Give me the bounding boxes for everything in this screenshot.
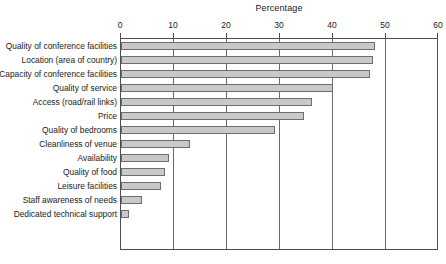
x-tick-label: 60 (433, 20, 442, 30)
bar-row: Quality of conference facilities (0, 40, 446, 54)
category-label: Price (98, 111, 117, 122)
bar (121, 126, 275, 134)
bar-chart: Percentage 0102030405060 Quality of conf… (0, 0, 446, 264)
category-label: Cleanliness of venue (39, 139, 117, 150)
bar-row: Quality of service (0, 82, 446, 96)
bar (121, 98, 312, 106)
x-tick-label: 0 (118, 20, 123, 30)
bar (121, 42, 375, 50)
x-tick-label: 20 (221, 20, 230, 30)
bar-row: Leisure facilities (0, 180, 446, 194)
category-label: Capacity of conference facilities (0, 69, 117, 80)
x-tick-label: 10 (168, 20, 177, 30)
bar-row: Capacity of conference facilities (0, 68, 446, 82)
category-label: Staff awareness of needs (23, 195, 117, 206)
category-label: Quality of food (63, 167, 117, 178)
bar (121, 154, 169, 162)
category-label: Quality of bedrooms (42, 125, 117, 136)
bar-row: Location (area of country) (0, 54, 446, 68)
category-label: Location (area of country) (22, 55, 117, 66)
x-tick-label: 40 (327, 20, 336, 30)
bar (121, 196, 142, 204)
category-label: Availability (78, 153, 117, 164)
bar-row: Dedicated technical support (0, 208, 446, 222)
bar-rows: Quality of conference facilitiesLocation… (0, 38, 446, 250)
bar (121, 182, 161, 190)
bar-row: Access (road/rail links) (0, 96, 446, 110)
bar-row: Quality of bedrooms (0, 124, 446, 138)
category-label: Quality of conference facilities (6, 41, 117, 52)
category-label: Dedicated technical support (14, 209, 117, 220)
bar (121, 168, 165, 176)
bar-row: Staff awareness of needs (0, 194, 446, 208)
bar (121, 140, 190, 148)
x-tick-label: 30 (274, 20, 283, 30)
bar (121, 56, 373, 64)
bar (121, 112, 304, 120)
bar (121, 84, 333, 92)
bar-row: Price (0, 110, 446, 124)
x-axis: 0102030405060 (0, 0, 446, 38)
category-label: Quality of service (53, 83, 117, 94)
bar-row: Availability (0, 152, 446, 166)
bar-row: Quality of food (0, 166, 446, 180)
bar (121, 70, 370, 78)
bar-row: Cleanliness of venue (0, 138, 446, 152)
x-tick-label: 50 (380, 20, 389, 30)
category-label: Leisure facilities (57, 181, 117, 192)
bar (121, 210, 129, 218)
category-label: Access (road/rail links) (33, 97, 117, 108)
